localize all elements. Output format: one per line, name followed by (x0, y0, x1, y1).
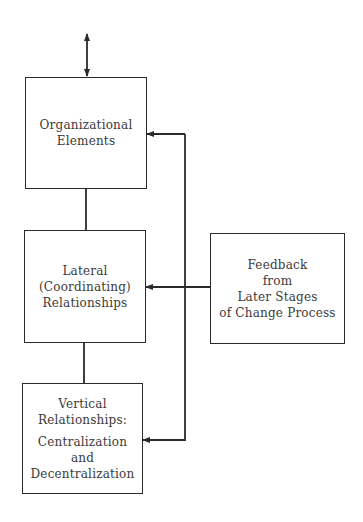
vertical-relationships-box: Vertical Relationships: Centralization a… (22, 383, 143, 494)
box-label-line: (Coordinating) (39, 279, 131, 295)
box-label-line: Decentralization (31, 466, 135, 482)
organizational-elements-box: Organizational Elements (25, 77, 147, 189)
box-label-line: Relationships: (38, 412, 127, 428)
box-label-line: Elements (57, 133, 116, 149)
box-label-line: Centralization (38, 434, 127, 450)
lateral-relationships-box: Lateral (Coordinating) Relationships (24, 230, 146, 343)
box-label-line: from (263, 273, 293, 289)
box-label-line: Later Stages (237, 289, 317, 305)
box-label-line: Feedback (248, 257, 308, 273)
box-label-line: of Change Process (219, 305, 335, 321)
box-label-line: Organizational (40, 117, 133, 133)
box-label-line: Relationships (43, 295, 128, 311)
box-label-line: Lateral (62, 263, 107, 279)
feedback-box: Feedback from Later Stages of Change Pro… (210, 233, 345, 344)
box-label-line: Vertical (58, 396, 106, 412)
box-label-line: and (71, 450, 94, 466)
